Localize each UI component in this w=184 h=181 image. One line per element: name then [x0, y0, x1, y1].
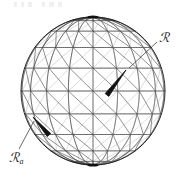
vector-ra-leader-line — [19, 121, 34, 149]
mesh-line — [118, 91, 137, 114]
mesh-line — [79, 21, 93, 32]
mesh-line — [116, 114, 130, 135]
mesh-line — [93, 31, 113, 47]
mesh-line — [139, 68, 152, 91]
mesh-line — [93, 31, 107, 47]
mesh-line — [56, 135, 57, 151]
mesh-line — [85, 151, 93, 162]
mesh-line — [139, 91, 152, 114]
vector-r — [105, 42, 157, 96]
mesh-line — [93, 48, 113, 69]
mesh-line — [70, 114, 93, 135]
label-script-r: ℛ — [159, 31, 169, 46]
label-script-r-glyph: ℛ — [159, 30, 169, 45]
mesh-line — [79, 151, 93, 162]
mesh-line — [31, 91, 49, 114]
sphere-wireframe-svg — [0, 0, 184, 181]
vector-arrows-group — [19, 42, 157, 149]
mesh-line — [47, 68, 70, 91]
mesh-line — [93, 114, 113, 135]
mesh-line — [56, 31, 57, 47]
mesh-line — [56, 114, 70, 135]
south-pole-marker — [88, 163, 99, 166]
mesh-line — [49, 91, 68, 114]
mesh-line — [112, 21, 134, 32]
mesh-line — [155, 91, 160, 114]
mesh-line — [93, 135, 113, 151]
north-pole-marker — [88, 15, 99, 18]
mesh-line — [73, 135, 93, 151]
mesh-line — [137, 91, 155, 114]
mesh-line — [31, 68, 49, 91]
mesh-line — [51, 21, 73, 32]
mesh-line — [155, 68, 160, 91]
mesh-line — [130, 31, 131, 47]
mesh-line — [79, 31, 93, 47]
mesh-line — [118, 68, 137, 91]
mesh-line — [93, 135, 107, 151]
mesh-line — [73, 31, 93, 47]
mesh-line — [34, 91, 47, 114]
mesh-line — [93, 48, 116, 69]
mesh-line — [137, 68, 155, 91]
mesh-line — [93, 151, 101, 162]
mesh-line — [34, 68, 47, 91]
mesh-line — [47, 91, 70, 114]
mesh-line — [93, 21, 107, 32]
mesh-line — [113, 114, 137, 135]
label-script-r-a-subscript: a — [19, 157, 23, 166]
mesh-line — [49, 48, 73, 69]
mesh-line — [116, 48, 130, 69]
mesh-line — [56, 48, 70, 69]
mesh-line — [43, 48, 49, 69]
mesh-line — [130, 135, 131, 151]
mesh-line — [93, 114, 116, 135]
mesh-line — [73, 114, 93, 135]
mesh-line — [116, 91, 139, 114]
mesh-line — [26, 68, 31, 91]
label-script-r-a-glyph: ℛ — [9, 150, 19, 165]
mesh-line — [93, 21, 101, 32]
mesh-line — [112, 151, 134, 162]
mesh-line — [49, 68, 68, 91]
mesh-line — [137, 114, 143, 135]
mesh-line — [93, 151, 107, 162]
mesh-line — [85, 21, 93, 32]
mesh-line — [73, 48, 93, 69]
mesh-line — [70, 48, 93, 69]
mesh-line — [79, 135, 93, 151]
mesh-line — [51, 151, 73, 162]
sphere-mesh-group — [21, 17, 165, 165]
vector-r-arrow — [105, 70, 126, 96]
label-script-r-a: ℛa — [9, 151, 23, 166]
figure-container: ℛ ℛa — [0, 0, 184, 181]
